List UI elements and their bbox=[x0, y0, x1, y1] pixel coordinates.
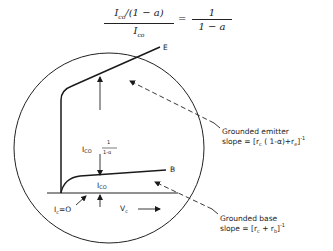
gap-fraction-den: 1-α bbox=[103, 149, 112, 155]
ic-zero-arrow bbox=[76, 196, 86, 205]
base-annotation-slope: slope = [rc + rb]-1 bbox=[220, 222, 285, 234]
base-leader-tick bbox=[212, 209, 218, 214]
base-ico-label: ICO bbox=[97, 181, 107, 190]
base-annotation-title: Grounded base bbox=[220, 214, 278, 223]
ic-zero-label: Ic=O bbox=[54, 205, 71, 215]
gap-fraction-num: 1 bbox=[107, 139, 110, 145]
vc-label: Vc bbox=[120, 204, 128, 214]
emitter-leader bbox=[130, 81, 214, 123]
emitter-annotation-title: Grounded emitter bbox=[222, 127, 290, 136]
emitter-leader-tick bbox=[214, 123, 220, 128]
emitter-annotation-slope: slope = [rc ( 1-α)+re]-1 bbox=[222, 135, 305, 147]
gap-label: ICO bbox=[82, 145, 92, 154]
curve-B-label: B bbox=[170, 165, 175, 174]
transistor-characteristic-diagram: E B ICO 1 1-α ICO Ic=O Vc Grounded emitt… bbox=[0, 0, 333, 251]
base-leader bbox=[155, 182, 212, 209]
curve-E-label: E bbox=[163, 43, 168, 52]
curve-B bbox=[61, 170, 166, 193]
